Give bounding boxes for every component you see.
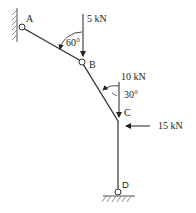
node-label-c: C bbox=[124, 108, 131, 118]
ground-support-d bbox=[102, 196, 135, 202]
node-label-b: B bbox=[89, 60, 96, 70]
angle-arc-30 bbox=[103, 86, 119, 90]
angle-label-60: 60° bbox=[66, 38, 80, 48]
load-label-5kn: 5 kN bbox=[87, 14, 107, 24]
hinge-a bbox=[19, 24, 25, 30]
load-label-15kn: 15 kN bbox=[158, 121, 183, 131]
member-bc bbox=[83, 64, 118, 121]
node-label-a: A bbox=[26, 14, 33, 24]
hinge-b bbox=[79, 59, 85, 65]
wall-support-a bbox=[12, 8, 17, 42]
load-label-10kn: 10 kN bbox=[121, 72, 146, 82]
frame-diagram bbox=[0, 0, 196, 213]
hinge-d bbox=[115, 189, 121, 195]
node-label-d: D bbox=[122, 180, 129, 190]
angle-label-30: 30° bbox=[124, 90, 138, 100]
